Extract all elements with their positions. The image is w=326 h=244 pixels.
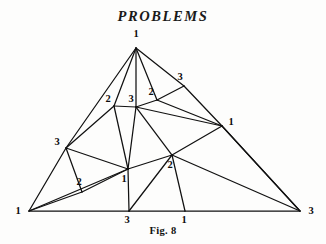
triangulation-edge xyxy=(129,155,172,211)
triangulation-edge xyxy=(128,107,136,169)
figure-caption: Fig. 8 xyxy=(0,225,326,236)
vertex-label-b1: 1 xyxy=(181,214,186,225)
triangulation-edge xyxy=(184,86,222,126)
triangulation-edge xyxy=(172,155,185,211)
vertex-label-br: 3 xyxy=(308,205,313,216)
vertex-label-c3: 3 xyxy=(128,93,133,104)
vertex-label-bl: 1 xyxy=(15,205,20,216)
triangulation-svg: 11332232311231 xyxy=(0,0,326,244)
vertex-label-u2: 2 xyxy=(148,86,153,97)
figure-page: PROBLEMS 11332232311231 Fig. 8 xyxy=(0,0,326,244)
triangulation-edge xyxy=(29,148,66,211)
vertex-label-b3: 3 xyxy=(124,214,129,225)
triangulation-edge xyxy=(157,100,222,126)
triangulation-edge xyxy=(114,106,128,169)
vertex-label-c1: 1 xyxy=(121,173,126,184)
triangulation-edge xyxy=(136,100,157,107)
triangulation-edge xyxy=(66,48,136,148)
triangulation-edge xyxy=(114,106,136,107)
vertex-label-c2: 2 xyxy=(105,93,110,104)
vertex-label-r1: 1 xyxy=(228,116,233,127)
triangulation-figure: 11332232311231 xyxy=(0,0,326,244)
triangulation-edge xyxy=(66,148,128,169)
edge-layer xyxy=(29,48,300,211)
vertex-label-m2: 2 xyxy=(167,159,172,170)
triangulation-edge xyxy=(172,155,300,211)
triangulation-edge xyxy=(128,169,129,211)
vertex-label-u3: 3 xyxy=(177,71,182,82)
vertex-label-layer: 11332232311231 xyxy=(15,28,313,225)
triangulation-edge xyxy=(66,106,114,148)
triangulation-edge xyxy=(172,126,222,155)
vertex-label-apex: 1 xyxy=(133,28,138,39)
triangulation-edge xyxy=(29,169,128,211)
vertex-label-l3: 3 xyxy=(54,136,59,147)
triangulation-edge xyxy=(136,107,222,126)
vertex-label-l2: 2 xyxy=(76,176,81,187)
triangulation-edge xyxy=(157,86,184,100)
triangulation-edge xyxy=(222,126,300,211)
triangulation-edge xyxy=(128,155,172,169)
